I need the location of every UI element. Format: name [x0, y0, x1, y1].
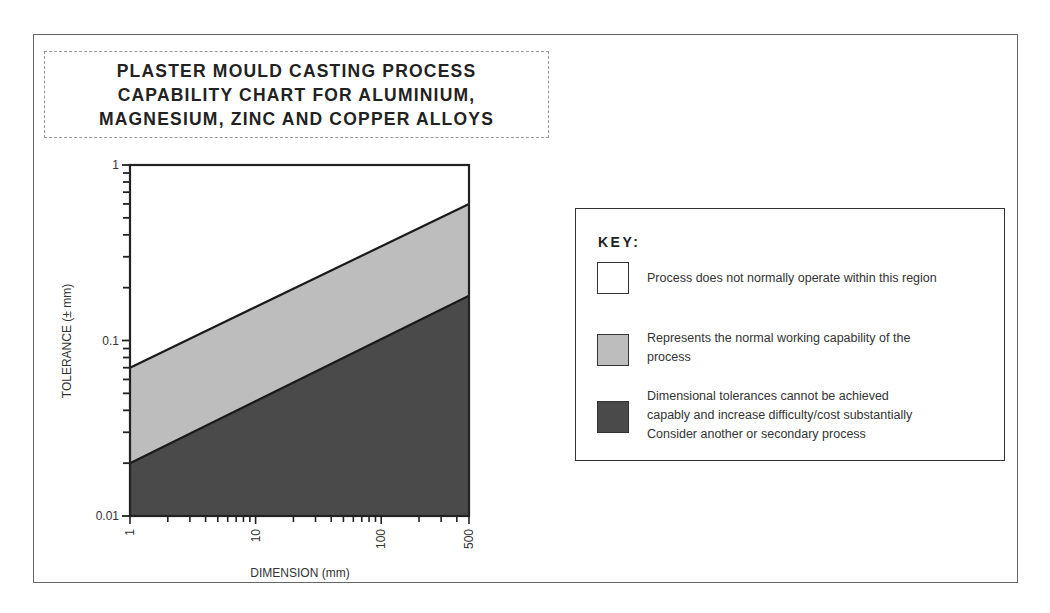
y-tick-label: 1: [112, 158, 119, 172]
legend-item-not-achievable: Dimensional tolerances cannot be achieve…: [647, 387, 912, 444]
legend-text-line: process: [647, 348, 910, 367]
plot-regions: [130, 165, 469, 516]
x-tick-label: 1: [123, 529, 137, 536]
x-tick-label: 500: [462, 529, 476, 549]
legend-text-line: capably and increase difficulty/cost sub…: [647, 406, 912, 425]
x-tick-label: 100: [374, 529, 388, 549]
legend-item-not-operate: Process does not normally operate within…: [647, 269, 937, 288]
legend-text-line: Process does not normally operate within…: [647, 269, 937, 288]
legend-swatch-dark-gray: [597, 401, 629, 433]
legend-item-normal-capability: Represents the normal working capability…: [647, 329, 910, 367]
x-tick-label: 10: [249, 529, 263, 543]
legend-swatch-light-gray: [597, 334, 629, 366]
legend-text-line: Consider another or secondary process: [647, 425, 912, 444]
y-tick-label: 0.01: [96, 509, 120, 523]
legend-title: KEY:: [598, 234, 640, 250]
legend: KEY: Process does not normally operate w…: [575, 208, 1005, 461]
legend-text-line: Represents the normal working capability…: [647, 329, 910, 348]
x-axis-label: DIMENSION (mm): [250, 566, 349, 580]
legend-swatch-white: [597, 262, 629, 294]
y-tick-label: 0.1: [102, 334, 119, 348]
y-axis-label: TOLERANCE (± mm): [60, 284, 74, 398]
legend-text-line: Dimensional tolerances cannot be achieve…: [647, 387, 912, 406]
